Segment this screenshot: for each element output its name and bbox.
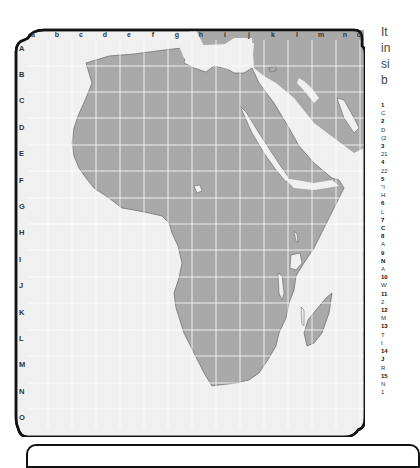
row-label-b: B [19, 70, 24, 79]
list-item: 2 [381, 117, 388, 125]
intro-line: in [381, 40, 390, 56]
intro-paragraph: It in si b [381, 24, 390, 88]
row-label-h: H [19, 228, 24, 237]
intro-line: It [381, 24, 390, 40]
list-item: M [381, 314, 388, 322]
map-graphic [14, 28, 365, 437]
list-item: (2 [381, 134, 388, 142]
list-item: 5 [381, 175, 388, 183]
row-label-l: L [19, 334, 24, 343]
column-label-l: l [292, 31, 302, 38]
column-label-h: h [196, 31, 206, 38]
list-item: 12 [381, 306, 388, 314]
list-item: A [381, 265, 388, 273]
row-label-a: A [19, 44, 24, 53]
column-label-e: e [124, 31, 134, 38]
row-label-j: J [19, 281, 23, 290]
list-item: L [381, 208, 388, 216]
list-item: 1 [381, 388, 388, 396]
list-item: N [381, 380, 388, 388]
list-item: C [381, 109, 388, 117]
list-item: 22 [381, 167, 388, 175]
column-label-d: d [100, 31, 110, 38]
column-label-b: b [52, 31, 62, 38]
column-label-i: i [220, 31, 230, 38]
list-item: 6 [381, 199, 388, 207]
row-label-o: O [19, 413, 25, 422]
list-item: N [381, 257, 388, 265]
list-item: 9 [381, 249, 388, 257]
column-label-o: o [354, 31, 364, 38]
list-item: 10 [381, 273, 388, 281]
row-label-d: D [19, 123, 24, 132]
list-item: 14 [381, 347, 388, 355]
numbered-list: 1 C 2 D (2 3 21 4 22 5 "I H 6 L 7 C 8 A … [381, 101, 388, 396]
list-item: I [381, 339, 388, 347]
intro-line: si [381, 56, 390, 72]
row-label-f: F [19, 176, 24, 185]
row-label-g: G [19, 202, 25, 211]
list-item: 2 [381, 298, 388, 306]
list-item: 1 [381, 101, 388, 109]
column-label-k: k [268, 31, 278, 38]
column-label-a: a [28, 31, 38, 38]
list-item: 7 [381, 216, 388, 224]
row-label-c: C [19, 96, 24, 105]
row-label-e: E [19, 149, 24, 158]
column-label-j: j [244, 31, 254, 38]
list-item: 3 [381, 142, 388, 150]
list-item: 21 [381, 150, 388, 158]
list-item: J [381, 355, 388, 363]
list-item: 13 [381, 322, 388, 330]
column-label-n: n [340, 31, 350, 38]
column-label-g: g [172, 31, 182, 38]
africa-map: a b c d e f g h i j k l m n o A B C D E … [14, 28, 365, 437]
intro-line: b [381, 72, 390, 88]
list-item: D [381, 126, 388, 134]
list-item: R [381, 364, 388, 372]
column-label-f: f [148, 31, 158, 38]
column-label-c: c [76, 31, 86, 38]
column-label-m: m [316, 31, 326, 38]
list-item: W [381, 281, 388, 289]
row-label-k: K [19, 308, 24, 317]
list-item: 4 [381, 158, 388, 166]
list-item: "I [381, 183, 388, 191]
side-text-column: It in si b 1 C 2 D (2 3 21 4 22 5 "I H 6… [381, 0, 403, 447]
list-item: C [381, 224, 388, 232]
row-label-i: I [19, 255, 21, 264]
list-item: T [381, 331, 388, 339]
list-item: 8 [381, 232, 388, 240]
row-label-n: N [19, 387, 24, 396]
list-item: 15 [381, 372, 388, 380]
row-label-m: M [19, 360, 25, 369]
list-item: 11 [381, 290, 388, 298]
list-item: H [381, 191, 388, 199]
list-item: A [381, 240, 388, 248]
bottom-panel-border [26, 444, 420, 468]
